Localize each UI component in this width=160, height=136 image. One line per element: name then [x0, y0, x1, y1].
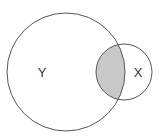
label-x: X — [134, 65, 143, 80]
label-y: Y — [38, 65, 47, 80]
venn-diagram: Y X — [0, 0, 160, 136]
